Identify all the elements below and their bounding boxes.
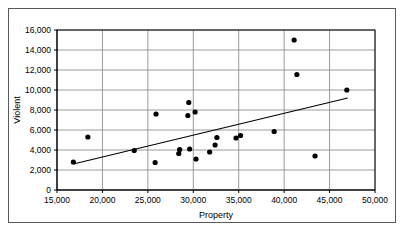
data-point — [294, 72, 299, 77]
chart-canvas: 02,0004,0006,0008,00010,00012,00014,0001… — [0, 0, 406, 242]
y-axis-tick-label: 16,000 — [25, 25, 51, 35]
data-point — [177, 147, 182, 152]
y-axis-tick-label: 4,000 — [30, 145, 52, 155]
x-axis-tick-label: 25,000 — [135, 195, 161, 205]
data-point — [85, 134, 90, 139]
data-point — [153, 160, 158, 165]
data-point — [312, 153, 317, 158]
data-point — [214, 135, 219, 140]
x-axis-title: Property — [199, 210, 234, 220]
y-axis-tick-label: 6,000 — [30, 125, 52, 135]
data-point — [238, 133, 243, 138]
y-axis-title: Violent — [12, 96, 22, 124]
y-axis-tick-label: 8,000 — [30, 105, 52, 115]
data-point — [132, 148, 137, 153]
data-point — [193, 109, 198, 114]
y-axis-tick-label: 0 — [46, 185, 51, 195]
data-point — [71, 159, 76, 164]
y-axis-tick-label: 2,000 — [30, 165, 52, 175]
data-point — [233, 135, 238, 140]
data-point — [193, 156, 198, 161]
data-point — [187, 146, 192, 151]
y-axis-tick-label: 14,000 — [25, 45, 51, 55]
x-axis-tick-label: 30,000 — [180, 195, 206, 205]
x-axis-tick-label: 45,000 — [317, 195, 343, 205]
data-point — [153, 111, 158, 116]
scatter-plot-figure: 02,0004,0006,0008,00010,00012,00014,0001… — [0, 0, 406, 242]
data-point — [185, 113, 190, 118]
x-axis-tick-label: 20,000 — [89, 195, 115, 205]
data-point — [207, 149, 212, 154]
x-axis-tick-label: 40,000 — [271, 195, 297, 205]
data-point — [272, 129, 277, 134]
y-axis-tick-label: 12,000 — [25, 65, 51, 75]
data-point — [212, 142, 217, 147]
data-point — [292, 37, 297, 42]
data-point — [344, 87, 349, 92]
x-axis-tick-label: 35,000 — [226, 195, 252, 205]
y-axis-tick-label: 10,000 — [25, 85, 51, 95]
x-axis-tick-label: 50,000 — [362, 195, 388, 205]
data-point — [186, 100, 191, 105]
x-axis-tick-label: 15,000 — [44, 195, 70, 205]
